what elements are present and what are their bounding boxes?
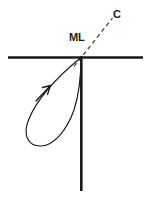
label-c: C — [113, 9, 121, 20]
teardrop-loop-curve — [26, 58, 81, 147]
figure-canvas: M L C — [0, 0, 152, 202]
label-m: M — [69, 32, 78, 43]
label-l: L — [78, 32, 85, 43]
direction-arrow-icon — [36, 86, 51, 102]
